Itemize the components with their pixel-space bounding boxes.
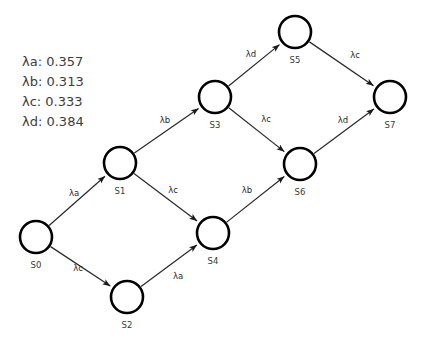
node-circle-s6[interactable] [284,148,316,180]
node-label-s2: S2 [122,320,133,330]
legend-entry-lambda-d: λd: 0.384 [22,114,84,129]
edge-s1-to-s4 [134,174,197,221]
edge-label-s2-s4: λa [173,271,183,281]
edge-label-s4-s6: λb [242,185,252,195]
legend-layer: λa: 0.357λb: 0.313λc: 0.333λd: 0.384 [22,54,84,129]
node-circle-s4[interactable] [197,217,229,249]
node-label-s3: S3 [210,120,221,130]
node-s0[interactable] [20,221,52,253]
node-label-s6: S6 [295,187,306,197]
edge-s4-to-s6 [227,176,285,222]
edge-label-s6-s7: λd [338,115,348,125]
edge-s5-to-s7 [309,42,373,86]
edge-s0-to-s1 [49,176,105,225]
edge-label-s5-s7: λc [350,50,360,60]
node-s7[interactable] [374,81,406,113]
node-s3[interactable] [199,81,231,113]
node-circle-s2[interactable] [111,281,143,313]
edge-label-s0-s1: λa [69,188,79,198]
node-circle-s7[interactable] [374,81,406,113]
edge-label-s1-s4: λc [168,185,178,195]
edge-s3-to-s6 [229,108,285,152]
diagram-canvas: S0S1S2S3S4S5S6S7 λaλcλbλcλaλdλcλbλcλd λa… [0,0,428,350]
node-circle-s0[interactable] [20,221,52,253]
node-label-s0: S0 [31,260,42,270]
edge-label-s3-s5: λd [246,49,256,59]
node-s2[interactable] [111,281,143,313]
node-label-s5: S5 [290,55,301,65]
edge-label-s3-s6: λc [261,114,271,124]
edge-s2-to-s4 [141,245,197,287]
edge-label-s1-s3: λb [160,115,170,125]
legend-entry-lambda-b: λb: 0.313 [22,74,84,89]
node-label-s7: S7 [385,120,396,130]
node-s5[interactable] [279,16,311,48]
node-label-s4: S4 [208,256,219,266]
node-circle-s3[interactable] [199,81,231,113]
node-s1[interactable] [104,147,136,179]
node-circle-s5[interactable] [279,16,311,48]
legend-entry-lambda-c: λc: 0.333 [22,94,83,109]
node-circle-s1[interactable] [104,147,136,179]
edge-label-s0-s2: λc [73,263,83,273]
node-s4[interactable] [197,217,229,249]
node-label-s1: S1 [115,186,126,196]
node-s6[interactable] [284,148,316,180]
state-diagram: S0S1S2S3S4S5S6S7 λaλcλbλcλaλdλcλbλcλd λa… [0,0,428,350]
legend-entry-lambda-a: λa: 0.357 [22,54,83,69]
